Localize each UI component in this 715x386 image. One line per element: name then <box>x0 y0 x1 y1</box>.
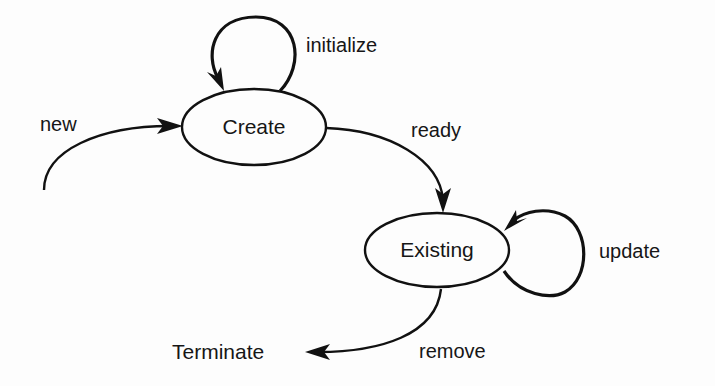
initialize-loop-line <box>212 17 295 91</box>
state-terminate: Terminate <box>172 340 264 363</box>
state-create: Create <box>182 89 326 165</box>
transition-initialize: initialize <box>207 17 377 91</box>
transition-label-initialize: initialize <box>306 34 377 56</box>
transition-ready: ready <box>326 119 461 213</box>
transition-new: new <box>40 113 183 190</box>
state-diagram: new initialize ready update remove Creat… <box>0 0 715 386</box>
new-arrow-line <box>44 126 170 190</box>
transition-label-new: new <box>40 113 77 135</box>
state-existing: Existing <box>365 213 509 287</box>
transition-remove: remove <box>305 289 486 362</box>
transition-update: update <box>504 210 660 296</box>
transition-label-remove: remove <box>419 340 486 362</box>
state-label-terminate: Terminate <box>172 340 264 363</box>
transition-label-ready: ready <box>411 119 461 141</box>
transition-label-update: update <box>599 240 660 262</box>
state-label-create: Create <box>222 115 285 138</box>
arrowhead-icon <box>435 188 451 213</box>
state-label-existing: Existing <box>400 238 474 261</box>
